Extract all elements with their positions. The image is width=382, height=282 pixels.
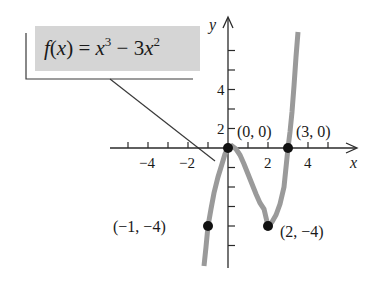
point-root-3 <box>283 143 293 153</box>
function-graph: −4 −2 2 4 4 2 x y (0, 0) (3, 0) (−1, −4)… <box>0 0 382 282</box>
x-tick-label-neg4: −4 <box>139 155 155 171</box>
point-label-3-0: (3, 0) <box>296 123 331 141</box>
point-label-neg1-neg4: (−1, −4) <box>113 218 166 236</box>
callout-leader-line <box>110 79 215 161</box>
point-2-neg4 <box>263 221 273 231</box>
point-label-2-neg4: (2, −4) <box>280 223 324 241</box>
y-tick-label-2: 2 <box>217 121 225 137</box>
callout-frame <box>26 33 215 161</box>
point-origin <box>223 143 233 153</box>
x-tick-label-2: 2 <box>264 155 272 171</box>
x-tick-label-neg2: −2 <box>179 155 195 171</box>
x-tick-label-4: 4 <box>304 155 312 171</box>
y-tick-label-4: 4 <box>217 82 225 98</box>
y-axis-label: y <box>207 16 217 34</box>
point-label-origin: (0, 0) <box>237 123 272 141</box>
x-axis-label: x <box>349 154 357 171</box>
point-neg1-neg4 <box>203 221 213 231</box>
